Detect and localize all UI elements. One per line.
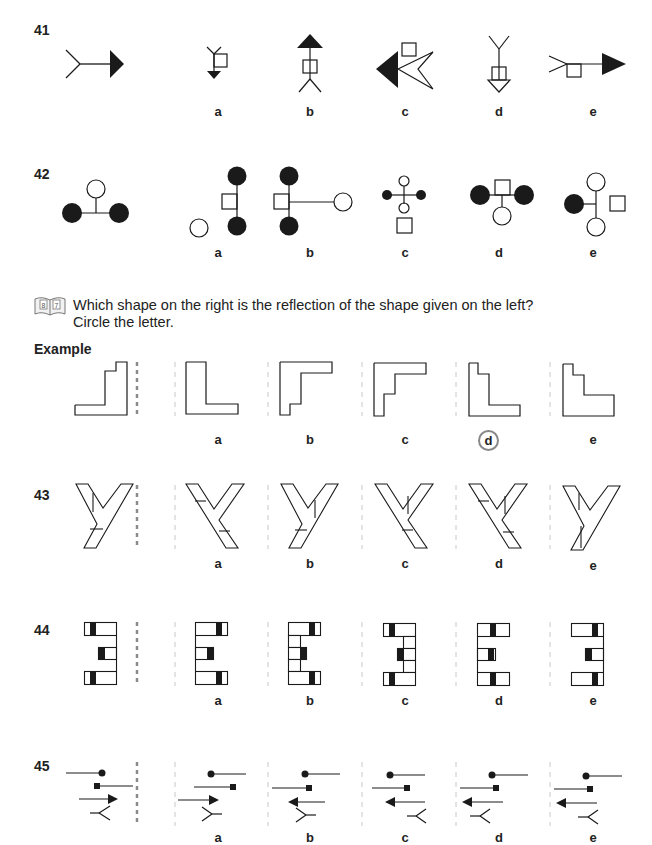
q42-option-c-shape[interactable]	[382, 176, 432, 236]
q44-option-d[interactable]: d	[489, 693, 509, 708]
q41-option-b[interactable]: b	[300, 104, 320, 119]
q43-option-d-shape[interactable]	[469, 484, 529, 550]
example-option-a[interactable]: a	[208, 432, 228, 447]
example-option-b-shape[interactable]	[280, 362, 335, 417]
q45-given-shape	[66, 768, 136, 828]
q42-option-a-shape[interactable]	[188, 166, 258, 241]
q43-option-a[interactable]: a	[208, 556, 228, 571]
q43-option-b[interactable]: b	[300, 556, 320, 571]
q43-option-d[interactable]: d	[489, 556, 509, 571]
q44-option-d-shape[interactable]	[477, 623, 513, 687]
book-page-right: 7	[55, 302, 59, 309]
q45-option-a[interactable]: a	[208, 830, 228, 845]
q41-option-d[interactable]: d	[489, 104, 509, 119]
q43-option-a-shape[interactable]	[186, 484, 246, 550]
q43-option-e-shape[interactable]	[563, 486, 623, 552]
q44-option-b-shape[interactable]	[288, 622, 324, 686]
q41-option-e[interactable]: e	[583, 104, 603, 119]
q42-option-a[interactable]: a	[208, 245, 228, 260]
q43-option-c-shape[interactable]	[375, 484, 435, 550]
q44-given-shape	[84, 622, 120, 686]
example-option-c-shape[interactable]	[374, 363, 429, 418]
example-heading: Example	[34, 341, 92, 357]
instruction-line-1: Which shape on the right is the reflecti…	[73, 297, 533, 314]
q41-option-b-shape[interactable]	[297, 34, 327, 96]
q45-option-c[interactable]: c	[395, 830, 415, 845]
q43-option-c[interactable]: c	[395, 556, 415, 571]
example-option-c[interactable]: c	[395, 432, 415, 447]
q44-option-a[interactable]: a	[208, 693, 228, 708]
example-option-b[interactable]: b	[300, 432, 320, 447]
q45-option-e[interactable]: e	[583, 830, 603, 845]
q41-option-a-shape[interactable]	[206, 46, 236, 86]
q44-option-a-shape[interactable]	[195, 622, 231, 686]
question-number-42: 42	[34, 166, 50, 182]
example-option-d-circled-answer[interactable]: d	[478, 430, 499, 451]
q41-option-a[interactable]: a	[208, 104, 228, 119]
q42-option-d[interactable]: d	[489, 245, 509, 260]
q42-option-b-shape[interactable]	[272, 166, 352, 241]
q41-option-e-shape[interactable]	[549, 54, 629, 84]
example-option-e[interactable]: e	[583, 432, 603, 447]
example-given-shape	[75, 362, 130, 417]
instruction-line-2: Circle the letter.	[73, 314, 533, 331]
q45-option-e-shape[interactable]	[552, 771, 632, 831]
q42-option-b[interactable]: b	[300, 245, 320, 260]
book-icon: 8 7	[34, 296, 66, 316]
q44-option-e-shape[interactable]	[571, 623, 607, 687]
example-option-e-shape[interactable]	[563, 364, 618, 419]
q42-given-shape	[62, 180, 132, 230]
q42-option-e[interactable]: e	[583, 245, 603, 260]
q42-option-e-shape[interactable]	[564, 172, 634, 242]
q45-option-c-shape[interactable]	[370, 770, 450, 830]
q45-option-b[interactable]: b	[300, 830, 320, 845]
q45-option-a-shape[interactable]	[176, 768, 256, 828]
q41-option-d-shape[interactable]	[487, 36, 517, 96]
book-page-left: 8	[42, 302, 46, 309]
q44-option-c[interactable]: c	[395, 693, 415, 708]
q45-option-d-shape[interactable]	[458, 770, 538, 830]
example-option-a-shape[interactable]	[186, 362, 241, 417]
q41-option-c[interactable]: c	[395, 104, 415, 119]
q43-option-b-shape[interactable]	[281, 484, 341, 550]
q44-option-b[interactable]: b	[300, 693, 320, 708]
example-option-d-shape[interactable]	[469, 363, 524, 418]
q44-option-c-shape[interactable]	[383, 623, 419, 687]
question-number-41: 41	[34, 22, 50, 38]
q44-option-e[interactable]: e	[583, 693, 603, 708]
q42-option-c[interactable]: c	[395, 245, 415, 260]
q45-option-b-shape[interactable]	[270, 768, 350, 828]
q43-given-shape	[76, 484, 136, 550]
q42-option-d-shape[interactable]	[469, 180, 539, 240]
q41-option-c-shape[interactable]	[376, 42, 436, 92]
instruction-text: Which shape on the right is the reflecti…	[73, 297, 533, 331]
q41-given-shape	[66, 48, 136, 88]
q43-option-e[interactable]: e	[583, 558, 603, 573]
q45-option-d[interactable]: d	[489, 830, 509, 845]
